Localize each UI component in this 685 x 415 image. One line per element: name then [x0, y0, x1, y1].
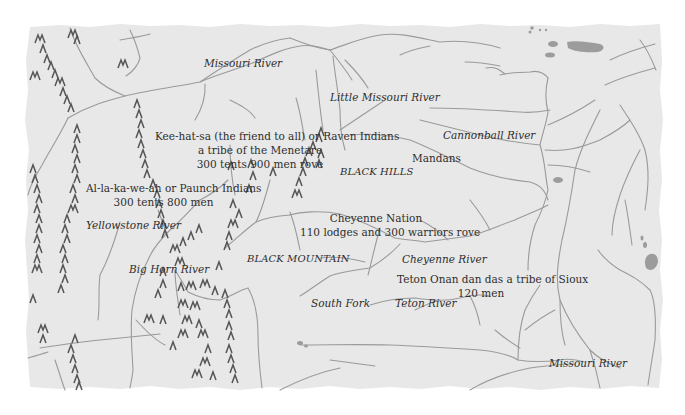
- paunch-indians-line-2: 300 tents 800 men: [86, 195, 241, 209]
- label-black-mountain: BLACK MOUNTAIN: [247, 254, 350, 264]
- raven-indians-line-3: 300 tents 900 men rove: [155, 157, 365, 171]
- teton-sioux-line-2: 120 men: [397, 286, 565, 300]
- label-raven-indians: Kee-hat-sa (the friend to all) or Raven …: [155, 129, 365, 171]
- label-missouri-river-north: Missouri River: [204, 58, 282, 69]
- label-cheyenne-river: Cheyenne River: [402, 254, 487, 265]
- label-cheyenne-nation: Cheyenne Nation 110 lodges and 300 warri…: [300, 211, 452, 239]
- label-teton-sioux: Teton Onan dan das a tribe of Sioux 120 …: [397, 272, 565, 300]
- label-yellowstone-river: Yellowstone River: [86, 220, 181, 231]
- label-missouri-river-south: Missouri River: [549, 358, 627, 369]
- label-paunch-indians: Al-la-ka-we-ah or Paunch Indians 300 ten…: [86, 181, 241, 209]
- label-cannonball-river: Cannonball River: [443, 130, 535, 141]
- label-south-fork: South Fork: [311, 298, 370, 309]
- raven-indians-line-2: a tribe of the Menetare: [155, 143, 365, 157]
- historical-map: Missouri River Little Missouri River Can…: [0, 0, 685, 415]
- label-big-horn-river: Big Horn River: [129, 264, 209, 275]
- raven-indians-line-1: Kee-hat-sa (the friend to all) or Raven …: [155, 129, 365, 143]
- label-little-missouri-river: Little Missouri River: [330, 92, 440, 103]
- paunch-indians-line-1: Al-la-ka-we-ah or Paunch Indians: [86, 181, 241, 195]
- mandans-line-1: Mandans: [412, 151, 461, 165]
- teton-sioux-line-1: Teton Onan dan das a tribe of Sioux: [397, 272, 565, 286]
- cheyenne-nation-line-1: Cheyenne Nation: [300, 211, 452, 225]
- cheyenne-nation-line-2: 110 lodges and 300 warriors rove: [300, 225, 452, 239]
- label-mandans: Mandans: [412, 151, 461, 165]
